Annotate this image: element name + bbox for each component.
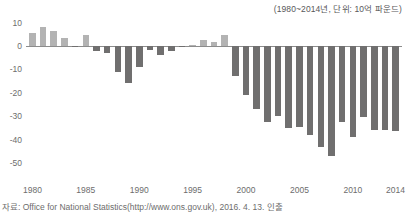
bar-2012	[371, 46, 378, 130]
chart-unit-note: (1980~2014년, 단위: 10억 파운드)	[274, 2, 402, 14]
y-axis-tick-label: -30	[10, 112, 22, 121]
bar-1981	[40, 27, 47, 46]
x-axis-tick-label: 2000	[237, 186, 256, 195]
bar-1983	[61, 38, 68, 46]
bar-1992	[157, 46, 164, 55]
bar-2013	[382, 46, 389, 130]
bar-2005	[296, 46, 303, 127]
bar-2004	[285, 46, 292, 128]
y-axis-tick-label: -50	[10, 159, 22, 168]
bar-1990	[136, 46, 143, 67]
bar-1995	[189, 45, 196, 46]
bar-2011	[360, 46, 367, 117]
x-axis-tick-label: 2005	[290, 186, 309, 195]
y-axis-tick-label: -40	[10, 135, 22, 144]
bar-1993	[168, 46, 175, 51]
bar-1997	[211, 42, 218, 46]
x-axis-tick-label: 2014	[386, 186, 405, 195]
bar-2007	[318, 46, 325, 147]
bar-2014	[392, 46, 399, 131]
bar-1980	[29, 33, 36, 46]
bar-1986	[93, 46, 100, 51]
bar-1991	[147, 46, 154, 50]
bar-1985	[83, 35, 90, 46]
bar-2000	[243, 46, 250, 95]
bar-1988	[115, 46, 122, 72]
x-axis: 19801985199019952000200520102014	[26, 186, 402, 200]
bar-2002	[264, 46, 271, 122]
bar-1999	[232, 46, 239, 76]
y-axis-tick-label: -10	[10, 65, 22, 74]
bar-2003	[275, 46, 282, 116]
bar-1989	[125, 46, 132, 83]
bar-2001	[253, 46, 260, 109]
x-axis-tick-label: 1985	[76, 186, 95, 195]
x-axis-tick-label: 1990	[130, 186, 149, 195]
x-axis-tick-label: 1995	[183, 186, 202, 195]
bar-2009	[339, 46, 346, 122]
bar-1982	[50, 31, 57, 46]
y-axis-tick-label: -20	[10, 89, 22, 98]
bar-1994	[179, 46, 186, 47]
trade-balance-bar-chart: (1980~2014년, 단위: 10억 파운드) 100-10-20-30-4…	[0, 0, 408, 212]
bar-2008	[328, 46, 335, 156]
bar-1996	[200, 40, 207, 46]
y-axis-tick-label: 0	[17, 42, 22, 51]
bar-2010	[350, 46, 357, 137]
source-caption: 자료: Office for National Statistics(http:…	[2, 203, 283, 212]
y-axis-tick-label: 10	[13, 18, 22, 27]
x-axis-tick-label: 1980	[23, 186, 42, 195]
x-axis-tick-label: 2010	[343, 186, 362, 195]
bar-2006	[307, 46, 314, 135]
y-axis: 100-10-20-30-40-50	[0, 0, 26, 212]
bar-1984	[72, 46, 79, 47]
plot-area	[26, 18, 402, 186]
bar-1998	[221, 35, 228, 46]
zero-baseline	[26, 46, 402, 47]
bar-1987	[104, 46, 111, 53]
